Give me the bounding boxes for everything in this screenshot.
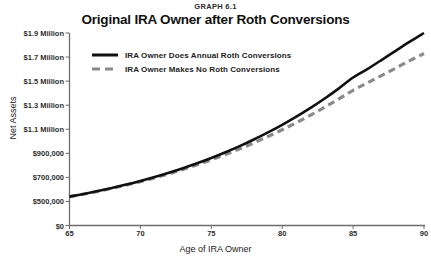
series-line-0	[70, 33, 425, 197]
chart-container: GRAPH 6.1 Original IRA Owner after Roth …	[0, 0, 431, 265]
plot-area	[0, 0, 431, 265]
series-line-1	[70, 53, 425, 196]
